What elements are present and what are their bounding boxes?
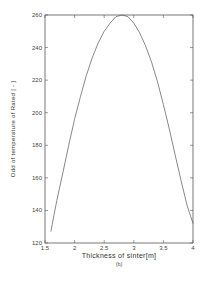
y-tick-label: 240 (32, 45, 43, 51)
x-axis-label: Thickness of sinter[m] (82, 252, 157, 260)
x-tick-label: 3.5 (159, 245, 168, 251)
x-tick-label: 2 (73, 245, 77, 251)
y-axis-label: Odd of temperature of Rated [ - ] (10, 81, 16, 178)
x-axis-ticks: 1.522.533.54 (41, 15, 196, 251)
y-tick-label: 180 (32, 142, 43, 148)
y-tick-label: 220 (32, 77, 43, 83)
y-tick-label: 160 (32, 175, 43, 181)
x-tick-label: 2.5 (100, 245, 109, 251)
plot-frame (45, 15, 193, 243)
y-axis-ticks: 120140160180200220240260 (32, 12, 193, 246)
x-tick-label: 1.5 (41, 245, 50, 251)
y-tick-label: 200 (32, 110, 43, 116)
line-chart: 120140160180200220240260 1.522.533.54 Th… (0, 0, 207, 281)
y-tick-label: 260 (32, 12, 43, 18)
figure-caption: (b) (116, 261, 123, 267)
y-tick-label: 140 (32, 207, 43, 213)
data-line (51, 15, 193, 232)
x-tick-label: 4 (191, 245, 195, 251)
x-tick-label: 3 (132, 245, 136, 251)
